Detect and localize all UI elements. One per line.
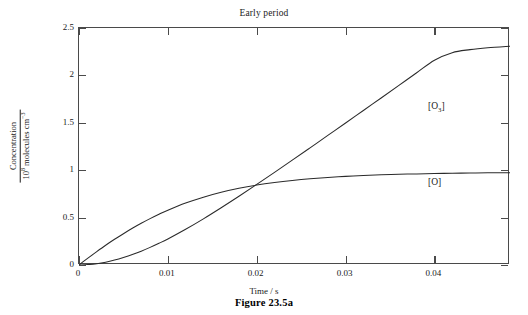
curve-annotation-o3: [O3] xyxy=(428,101,445,111)
y-tick-label-3: 1.5 xyxy=(44,117,74,127)
y-tick-right-5 xyxy=(501,28,508,29)
annotation-o-prefix: [O xyxy=(428,177,438,187)
x-tick-top-4 xyxy=(434,28,435,35)
chart-title: Early period xyxy=(0,8,528,18)
x-tick-top-2 xyxy=(257,28,258,35)
y-tick-left-1 xyxy=(79,218,86,219)
x-tick-label-2: 0.02 xyxy=(236,268,276,278)
x-tick-bottom-0 xyxy=(79,256,80,263)
plot-area xyxy=(78,27,509,264)
y-tick-right-1 xyxy=(501,218,508,219)
annotation-o-suffix: ] xyxy=(438,177,441,187)
figure-container: Early period 00.511.522.5 00.010.020.030… xyxy=(0,0,528,315)
x-axis-title: Time / s xyxy=(0,286,528,296)
x-tick-label-3: 0.03 xyxy=(325,268,365,278)
y-axis-numerator: Concentration xyxy=(9,109,21,182)
y-tick-left-4 xyxy=(79,75,86,76)
y-tick-label-1: 0.5 xyxy=(44,212,74,222)
y-tick-label-5: 2.5 xyxy=(44,22,74,32)
y-axis-den-prefix: 10 xyxy=(21,171,31,180)
x-tick-top-0 xyxy=(79,28,80,35)
x-tick-top-1 xyxy=(168,28,169,35)
x-tick-label-0: 0 xyxy=(58,268,98,278)
y-tick-label-2: 1 xyxy=(44,164,74,174)
x-tick-bottom-2 xyxy=(257,256,258,263)
y-tick-right-2 xyxy=(501,170,508,171)
y-tick-right-3 xyxy=(501,123,508,124)
curve-annotation-o: [O] xyxy=(428,177,441,187)
x-tick-bottom-4 xyxy=(434,256,435,263)
y-axis-denominator: 108 molecules cm−3 xyxy=(21,109,32,182)
y-tick-left-2 xyxy=(79,170,86,171)
y-tick-left-0 xyxy=(79,265,86,266)
curve-o-line xyxy=(79,173,510,265)
y-tick-right-0 xyxy=(501,265,508,266)
figure-caption: Figure 23.5a xyxy=(0,297,528,308)
y-axis-den-suffix-exp: −3 xyxy=(20,112,26,119)
x-tick-bottom-1 xyxy=(168,256,169,263)
y-axis-den-exp: 8 xyxy=(20,168,26,171)
curve-o3-line xyxy=(79,46,510,265)
y-axis-den-suffix: molecules cm xyxy=(21,119,31,168)
annotation-o3-suffix: ] xyxy=(441,101,444,111)
y-axis-title: Concentration 108 molecules cm−3 xyxy=(9,109,32,182)
annotation-o3-prefix: [O xyxy=(428,101,438,111)
x-tick-label-1: 0.01 xyxy=(147,268,187,278)
y-tick-label-4: 2 xyxy=(44,69,74,79)
y-tick-right-4 xyxy=(501,75,508,76)
x-tick-label-4: 0.04 xyxy=(413,268,453,278)
x-tick-bottom-3 xyxy=(346,256,347,263)
x-tick-top-3 xyxy=(346,28,347,35)
plot-svg xyxy=(79,28,510,265)
y-tick-left-3 xyxy=(79,123,86,124)
